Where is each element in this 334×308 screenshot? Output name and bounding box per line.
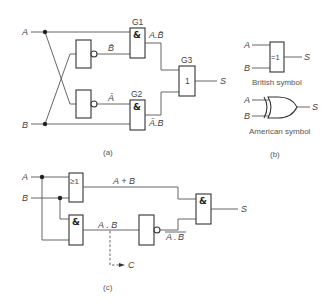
signal-not-a-dot-b: A . B: [165, 232, 186, 242]
and-symbol: &: [72, 217, 80, 227]
circuit-a: A B B̄ Ā G1 & A.B̄ G2 & Ā.B G3: [21, 17, 226, 157]
signal-a-plus-b: A + B: [112, 176, 135, 186]
or-symbol: ≥1: [70, 177, 79, 186]
output-s-label: S: [220, 76, 226, 86]
not-gate: [139, 215, 154, 245]
carry-dashed-wire: [110, 231, 120, 265]
signal-not-a: Ā: [107, 93, 114, 103]
signal-part-b: B: [178, 232, 184, 242]
gate-g2-label: G2: [131, 89, 143, 99]
wire-g1-to-g3: [145, 43, 179, 70]
signal-g1-out: A.B̄: [148, 30, 164, 40]
inversion-bubble-icon: [91, 51, 97, 57]
input-a-label: A: [21, 27, 28, 37]
inversion-bubble-icon: [154, 227, 160, 233]
american-input-a: A: [243, 95, 250, 105]
gate-g1-label: G1: [132, 17, 144, 27]
inversion-bubble-icon: [91, 101, 97, 107]
circuit-c: A B ≥1 A + B & A . B C A . B: [21, 172, 247, 292]
not-gate-a: [76, 90, 91, 118]
signal-part-dot: .: [174, 232, 177, 242]
signal-part-a: A: [165, 232, 172, 242]
british-symbol-label: British symbol: [252, 78, 302, 87]
wire-a-to-not: [45, 32, 76, 104]
wire-b-to-and: [60, 198, 69, 219]
wire-nand-to-and: [160, 219, 196, 230]
carry-c-label: C: [128, 260, 135, 270]
signal-not-b: B̄: [108, 43, 114, 53]
british-input-wires: [252, 45, 270, 68]
not-gate-b: [76, 40, 91, 68]
signal-g2-out: Ā.B: [148, 118, 164, 128]
british-input-b: B: [244, 63, 250, 73]
caption-c: (c): [103, 283, 113, 292]
signal-a-dot-b: A . B: [97, 220, 117, 230]
junction-dot-b: [58, 196, 62, 200]
input-a-label: A: [21, 172, 28, 182]
arrow-right-icon: [119, 263, 125, 267]
input-b-label: B: [22, 193, 28, 203]
xor-circuit-figure: A B B̄ Ā G1 & A.B̄ G2 & Ā.B G3: [0, 0, 334, 308]
american-symbol-label: American symbol: [249, 127, 311, 136]
junction-dot-a: [40, 175, 44, 179]
xor-symbol: =1: [271, 53, 280, 62]
junction-dot-a: [43, 30, 47, 34]
american-xor-gate: [268, 97, 297, 118]
output-s-label: S: [241, 204, 247, 214]
wire-a-to-and: [42, 177, 69, 240]
wire-g2-to-g3: [145, 92, 179, 115]
british-output-s: S: [304, 52, 310, 62]
caption-b: (b): [270, 150, 280, 159]
wire-or-to-and: [83, 187, 196, 199]
american-input-b: B: [244, 111, 250, 121]
junction-dot-b: [43, 122, 47, 126]
and-symbol: &: [133, 30, 141, 40]
input-b-label: B: [22, 120, 28, 130]
and-symbol: &: [199, 196, 207, 206]
british-input-a: A: [243, 40, 250, 50]
caption-a: (a): [103, 148, 113, 157]
and-symbol: &: [133, 102, 141, 112]
symbols-b: A B =1 S British symbol A B S American s…: [243, 40, 318, 159]
american-output-s: S: [312, 102, 318, 112]
or-symbol: 1: [185, 76, 190, 86]
wire-b-to-not: [45, 54, 76, 124]
gate-g3-label: G3: [181, 55, 193, 65]
